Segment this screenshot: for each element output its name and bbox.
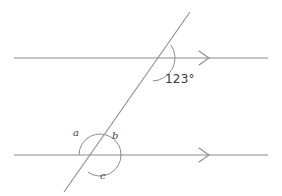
transversal-line — [64, 12, 190, 192]
angle-label-c: c — [100, 171, 106, 181]
geometry-diagram: 123° a b c — [0, 0, 282, 196]
angle-label-123: 123° — [165, 73, 195, 85]
angle-label-b: b — [112, 131, 118, 141]
angle-arc-a — [79, 134, 112, 155]
diagram-canvas — [0, 0, 282, 196]
angle-label-a: a — [73, 128, 79, 138]
